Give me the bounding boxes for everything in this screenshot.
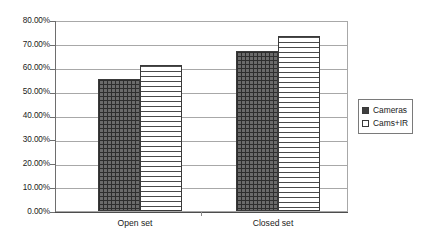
legend-item-cams-ir: Cams+IR: [362, 117, 408, 129]
bar-chart: 80.00% 70.00% 60.00% 50.00% 40.00% 30.00…: [0, 0, 428, 244]
bar-closed-set-cams-ir: [278, 36, 320, 211]
chart-legend: Cameras Cams+IR: [358, 99, 413, 134]
bar-closed-set-cameras: [236, 51, 278, 211]
x-category-label-open-set: Open set: [70, 218, 200, 228]
category-axis-tick-mid: [201, 212, 202, 216]
bar-open-set-cameras: [98, 79, 140, 212]
bar-open-set-cams-ir: [140, 65, 182, 211]
legend-swatch-cams-ir-icon: [362, 120, 369, 127]
plot-area: [55, 21, 348, 212]
legend-swatch-cameras-icon: [362, 107, 369, 114]
x-category-label-closed-set: Closed set: [208, 218, 338, 228]
legend-label-cams-ir: Cams+IR: [373, 119, 408, 128]
legend-item-cameras: Cameras: [362, 104, 408, 116]
legend-label-cameras: Cameras: [373, 106, 407, 115]
value-axis-line: [55, 21, 56, 213]
y-axis-tick-marks: [0, 0, 60, 244]
